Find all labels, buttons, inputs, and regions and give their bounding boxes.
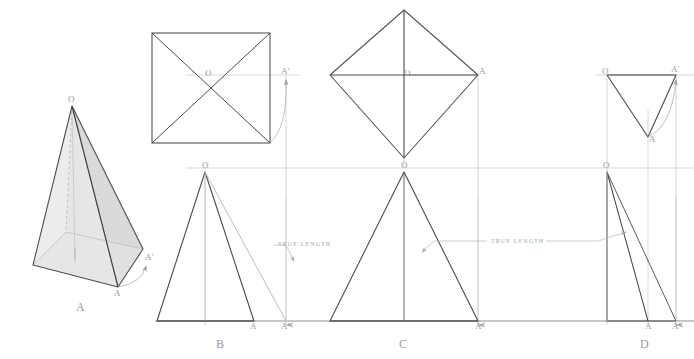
view-b-top-square (152, 33, 286, 143)
true-length-note-1: TRUE LENGTH (278, 241, 331, 247)
view-label-d: D (640, 337, 649, 352)
view-b-front-triangle (157, 172, 286, 321)
true-length-note-2: TRUE LENGTH (491, 238, 544, 244)
label-b-top-o: O (205, 68, 212, 78)
label-d-top-a-prime: A' (671, 64, 680, 74)
view-label-a: A (76, 300, 85, 315)
label-b-front-a: A (250, 321, 257, 331)
technical-drawing-figure (0, 0, 694, 359)
label-b-front-o: O (202, 160, 209, 170)
label-a-corner-a: A (114, 288, 121, 298)
label-a-apex-o: O (68, 94, 75, 104)
label-a-corner-a-prime: A' (145, 252, 154, 262)
view-label-c: C (399, 337, 408, 352)
label-d-front-a-prime: A' (672, 321, 681, 331)
label-d-front-o: O (603, 160, 610, 170)
view-d-top-triangle (607, 75, 676, 137)
leader-true-length-2-right (546, 232, 626, 241)
label-d-top-a: A (649, 134, 656, 144)
label-d-top-o: O (602, 66, 609, 76)
label-c-front-a: A (475, 321, 482, 331)
front-triangle-b (157, 172, 254, 321)
label-c-top-o: O (404, 68, 411, 78)
label-b-front-a-prime: A' (281, 321, 290, 331)
label-b-top-a-prime: A' (281, 66, 290, 76)
view-d-front-triangle (607, 172, 676, 321)
true-length-line-b (205, 172, 286, 321)
revolution-arc-b (270, 80, 286, 143)
leader-true-length-1 (274, 245, 294, 261)
view-label-b: B (216, 337, 225, 352)
view-a-pictorial-pyramid (33, 106, 146, 287)
construction-lines (155, 12, 694, 325)
view-c-top-diamond (330, 10, 478, 158)
plan-right-triangle-d (607, 75, 676, 137)
view-c-front-triangle (330, 172, 478, 321)
label-c-top-a: A (479, 66, 486, 76)
label-c-front-o: O (401, 160, 408, 170)
label-d-front-a: A (645, 321, 652, 331)
leader-true-length-2-left (422, 241, 487, 252)
